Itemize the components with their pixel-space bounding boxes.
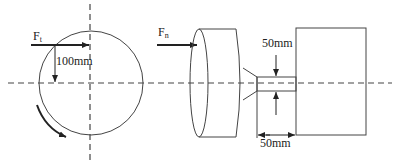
tangential-force-label: Ft <box>33 29 43 44</box>
gear-shaft-diagram: Ft 100mm Fn 50mm 50mm <box>0 0 396 163</box>
normal-force-label: Fn <box>158 25 169 40</box>
radius-dimension-label: 100mm <box>56 54 93 68</box>
shaft-diameter-label: 50mm <box>262 36 293 50</box>
housing-block <box>296 28 366 135</box>
conical-hub <box>243 68 257 100</box>
shaft-length-label: 50mm <box>260 136 291 150</box>
shaft <box>257 77 296 91</box>
rotation-direction-arrow <box>37 105 66 137</box>
